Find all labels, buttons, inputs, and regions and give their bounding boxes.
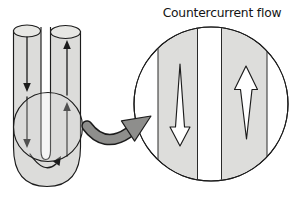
connector-arrow-body [87,126,128,140]
u-tube-assembly [14,25,83,187]
magnified-view [134,20,288,190]
countercurrent-diagram: Countercurrent flow [0,0,297,199]
magnifier-tint [14,93,82,161]
left-tube-opening [14,25,41,37]
right-tube-opening [51,26,81,39]
figure-canvas: Countercurrent flow [0,0,297,199]
figure-title: Countercurrent flow [163,6,282,20]
